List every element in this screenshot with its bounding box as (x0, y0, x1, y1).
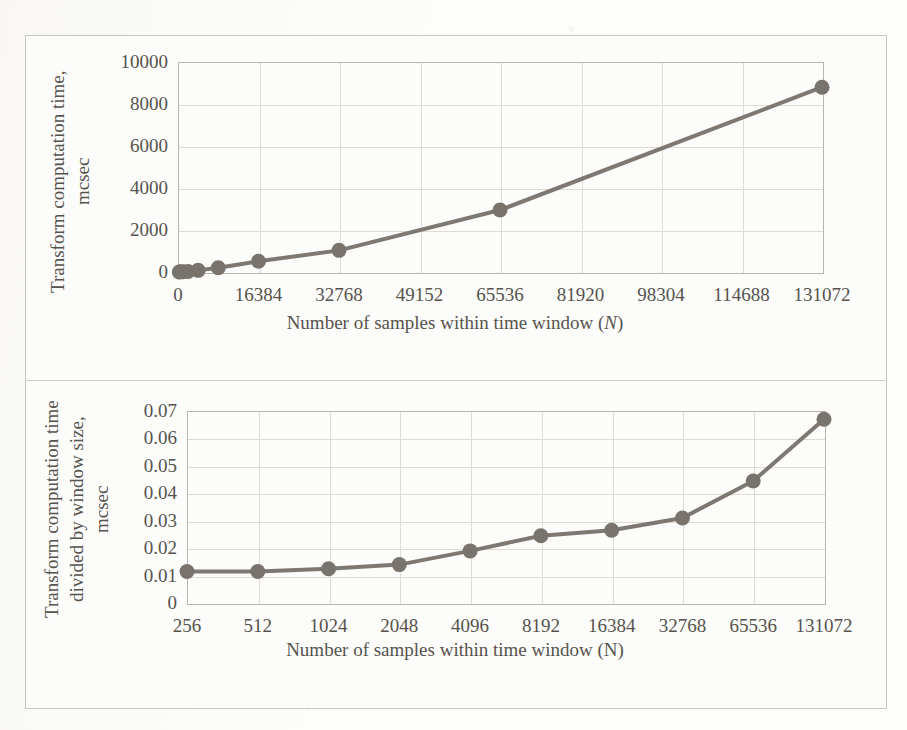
data-point-marker (332, 243, 347, 258)
data-point-marker (746, 473, 761, 488)
data-point-marker (191, 263, 206, 278)
data-point-marker (321, 561, 336, 576)
data-point-marker (604, 523, 619, 538)
data-point-marker (463, 543, 478, 558)
data-point-marker (533, 528, 548, 543)
chart-panel-transform-computation-time: Transform computation time, mcsec 020004… (25, 36, 885, 380)
data-point-marker (250, 564, 265, 579)
data-point-marker (251, 254, 266, 269)
x-axis-title-top: Number of samples within time window (N) (155, 312, 755, 334)
x-axis-symbol: N (604, 639, 618, 660)
data-point-marker (493, 203, 508, 218)
x-axis-title-bottom: Number of samples within time window (N) (155, 639, 755, 661)
data-point-marker (817, 412, 832, 427)
data-point-marker (392, 557, 407, 572)
data-point-marker (815, 80, 830, 95)
x-axis-symbol: N (604, 312, 617, 333)
data-point-marker (180, 564, 195, 579)
data-point-marker (211, 260, 226, 275)
data-point-marker (675, 510, 690, 525)
chart-panel-transform-time-per-window-size: Transform computation time divided by wi… (25, 381, 885, 707)
